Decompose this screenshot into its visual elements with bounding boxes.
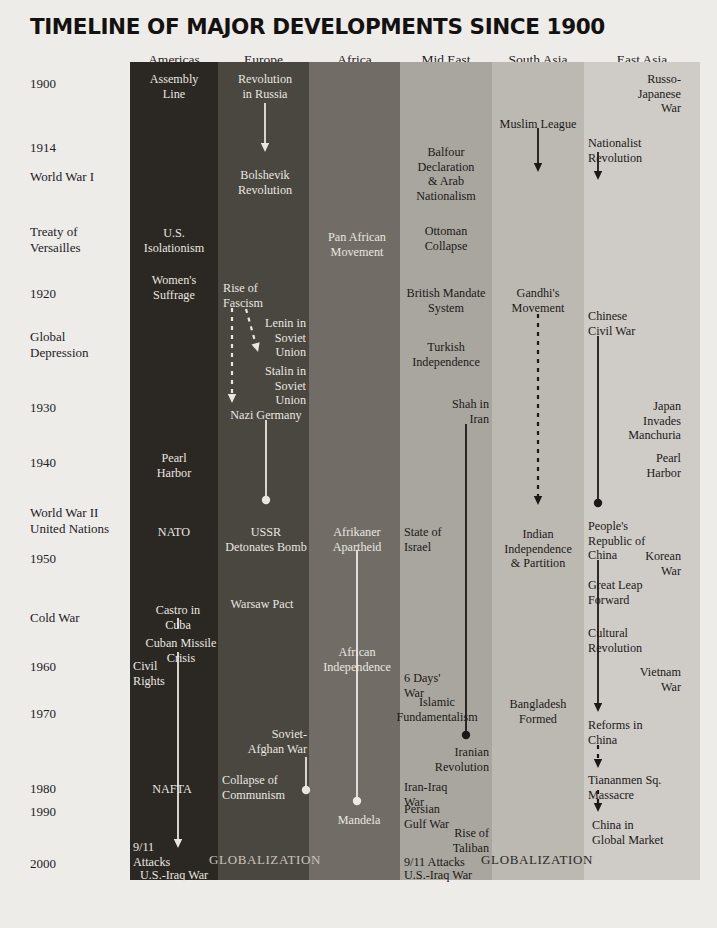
event-label-southasia: Muslim League	[500, 117, 577, 132]
connector-europe-revolution-to-bolshevik	[261, 103, 269, 152]
event-label-eastasia: People's Republic of China	[588, 519, 645, 563]
connector-europe-nazi-to-ussr-bomb	[262, 420, 270, 504]
gutter-label: 1900	[30, 76, 56, 92]
event-label-mideast: Shah in Iran	[452, 397, 489, 426]
event-label-europe: Collapse of Communism	[222, 773, 285, 802]
event-label-eastasia: Russo- Japanese War	[638, 72, 681, 116]
connector-africa-apartheid-to-mandela	[353, 550, 361, 805]
event-label-europe: Rise of Fascism	[223, 281, 263, 310]
gutter-label: 1930	[30, 400, 56, 416]
event-label-americas: 9/11 Attacks	[133, 840, 170, 869]
gutter-label: 2000	[30, 856, 56, 872]
timeline-page: TIMELINE OF MAJOR DEVELOPMENTS SINCE 190…	[0, 0, 717, 928]
event-label-mideast: Ottoman Collapse	[425, 224, 468, 253]
event-label-africa: Pan African Movement	[328, 230, 386, 259]
connector-europe-lenin-to-stalin	[246, 309, 260, 352]
event-label-europe: USSR Detonates Bomb	[225, 525, 307, 554]
event-label-americas: U.S.-Iraq War	[140, 868, 208, 883]
connector-eastasia-civilwar-to-prc	[594, 336, 602, 507]
gutter-label: Global Depression	[30, 329, 89, 361]
gutter-label: World War I	[30, 169, 94, 185]
event-label-mideast: Islamic Fundamentalism	[396, 695, 477, 724]
event-label-eastasia: Vietnam War	[640, 665, 681, 694]
event-label-eastasia: Reforms in China	[588, 718, 643, 747]
event-label-africa: Mandela	[338, 813, 381, 828]
event-label-eastasia: China in Global Market	[592, 818, 663, 847]
event-label-eastasia: Japan Invades Manchuria	[628, 399, 681, 443]
connector-americas-crisis-to-2001	[174, 652, 182, 848]
gutter-label: 1950	[30, 551, 56, 567]
event-label-mideast: State of Israel	[404, 525, 442, 554]
event-label-eastasia: Nationalist Revolution	[588, 136, 642, 165]
event-label-europe: Bolshevik Revolution	[238, 168, 292, 197]
event-label-africa: Afrikaner Apartheid	[333, 525, 382, 554]
event-label-mideast: Iranian Revolution	[435, 745, 489, 774]
event-label-americas: Assembly Line	[150, 72, 199, 101]
event-label-europe: Revolution in Russia	[238, 72, 292, 101]
event-label-americas: Women's Suffrage	[152, 273, 197, 302]
event-label-southasia: Bangladesh Formed	[510, 697, 567, 726]
gutter-label: 1960	[30, 659, 56, 675]
event-label-europe: Stalin in Soviet Union	[265, 364, 306, 408]
page-title: TIMELINE OF MAJOR DEVELOPMENTS SINCE 190…	[30, 14, 605, 39]
gutter-label: 1980	[30, 781, 56, 797]
event-label-americas: U.S. Isolationism	[144, 226, 204, 255]
event-label-eastasia: Cultural Revolution	[588, 626, 642, 655]
event-label-eastasia: Pearl Harbor	[646, 451, 681, 480]
event-label-mideast: British Mandate System	[407, 286, 486, 315]
timeline-grid: Assembly LineU.S. IsolationismWomen's Su…	[130, 62, 700, 880]
event-label-americas: Civil Rights	[133, 659, 165, 688]
event-label-africa: African Independence	[323, 645, 391, 674]
event-label-eastasia: Tiananmen Sq. Massacre	[588, 773, 661, 802]
gutter-label: Treaty of Versailles	[30, 224, 81, 256]
connector-layer	[130, 62, 700, 880]
event-label-europe: Soviet- Afghan War	[248, 727, 307, 756]
gutter-label: 1914	[30, 140, 56, 156]
event-label-eastasia: Great Leap Forward	[588, 578, 642, 607]
connector-europe-afghan-war-end	[302, 757, 310, 794]
event-label-americas: Pearl Harbor	[157, 451, 192, 480]
event-label-southasia: Indian Independence & Partition	[504, 527, 572, 571]
gutter-label: Cold War	[30, 610, 80, 626]
gutter-label: 1970	[30, 706, 56, 722]
connector-europe-fascism-to-nazi	[228, 308, 236, 403]
event-label-eastasia: Korean War	[645, 549, 681, 578]
gutter-label: 1990	[30, 804, 56, 820]
event-label-americas: NATO	[158, 525, 190, 540]
event-label-americas: NAFTA	[152, 782, 192, 797]
connector-eastasia-reforms-to-tiananmen	[594, 745, 602, 768]
gutter-label: World War II United Nations	[30, 505, 109, 537]
event-label-europe: Lenin in Soviet Union	[265, 316, 306, 360]
event-label-mideast: Rise of Taliban	[453, 826, 489, 855]
event-label-mideast: Persian Gulf War	[404, 802, 449, 831]
event-label-mideast: Balfour Declaration & Arab Nationalism	[416, 145, 476, 203]
connector-southasia-muslim-league-arrow	[534, 128, 542, 172]
event-label-southasia: Gandhi's Movement	[512, 286, 565, 315]
globalization-label: GLOBALIZATION	[481, 852, 593, 868]
event-label-mideast: Turkish Independence	[412, 340, 480, 369]
gutter-label: 1920	[30, 286, 56, 302]
event-label-europe: Warsaw Pact	[231, 597, 294, 612]
event-label-europe: Nazi Germany	[230, 408, 301, 423]
event-label-eastasia: Chinese Civil War	[588, 309, 635, 338]
connector-mideast-shah-to-revolution	[462, 424, 470, 739]
event-label-americas: Castro in Cuba	[156, 603, 200, 632]
event-label-mideast: U.S.-Iraq War	[404, 868, 472, 883]
gutter-label: 1940	[30, 455, 56, 471]
connector-southasia-gandhi-to-partition	[534, 314, 542, 505]
globalization-label: GLOBALIZATION	[209, 852, 321, 868]
